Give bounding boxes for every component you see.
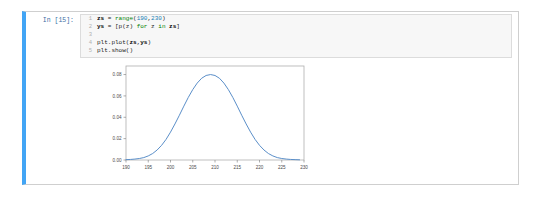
x-tick-label: 220 xyxy=(256,165,264,170)
plot-background xyxy=(126,66,304,160)
x-tick-label: 225 xyxy=(278,165,286,170)
code-editor[interactable]: 1zs = range(190,230)2ys = [p(z) for z in… xyxy=(80,14,512,58)
x-tick-label: 205 xyxy=(189,165,197,170)
cell-output-row: 1901952002052102152202252300.000.020.040… xyxy=(26,62,518,184)
y-tick-label: 0.06 xyxy=(113,94,122,99)
code-line: 2ys = [p(z) for z in zs] xyxy=(81,23,511,31)
input-prompt-label: In [15]: xyxy=(26,12,80,24)
x-tick-label: 230 xyxy=(300,165,308,170)
x-tick-label: 210 xyxy=(211,165,219,170)
code-line: 1zs = range(190,230) xyxy=(81,15,511,23)
x-tick-label: 195 xyxy=(144,165,152,170)
code-line-number: 2 xyxy=(81,23,97,31)
code-line: 4plt.plot(zs,ys) xyxy=(81,39,511,47)
code-line-number: 5 xyxy=(81,47,97,55)
y-tick-label: 0.00 xyxy=(113,158,122,163)
code-lines-container: 1zs = range(190,230)2ys = [p(z) for z in… xyxy=(81,15,511,55)
y-tick-label: 0.02 xyxy=(113,136,122,141)
cell-input-row: In [15]: 1zs = range(190,230)2ys = [p(z)… xyxy=(26,12,518,60)
matplotlib-figure: 1901952002052102152202252300.000.020.040… xyxy=(80,62,310,182)
y-tick-label: 0.08 xyxy=(113,72,122,77)
code-line-text: plt.plot(zs,ys) xyxy=(97,39,151,47)
code-line: 5plt.show() xyxy=(81,47,511,55)
code-line-text: plt.show() xyxy=(97,47,133,55)
code-line-number: 3 xyxy=(81,31,97,39)
code-line: 3 xyxy=(81,31,511,39)
x-tick-label: 215 xyxy=(233,165,241,170)
x-tick-label: 190 xyxy=(122,165,130,170)
code-line-number: 4 xyxy=(81,39,97,47)
plot-svg: 1901952002052102152202252300.000.020.040… xyxy=(80,62,310,182)
y-tick-label: 0.04 xyxy=(113,115,122,120)
notebook-cell[interactable]: In [15]: 1zs = range(190,230)2ys = [p(z)… xyxy=(22,11,519,185)
code-line-text: zs = range(190,230) xyxy=(97,15,165,23)
code-line-text: ys = [p(z) for z in zs] xyxy=(97,23,180,31)
code-line-number: 1 xyxy=(81,15,97,23)
x-tick-label: 200 xyxy=(167,165,175,170)
